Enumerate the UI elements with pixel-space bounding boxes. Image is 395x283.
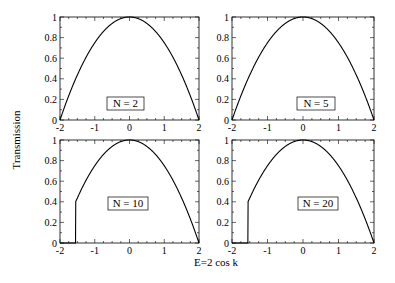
y-tick-label: 0.8 bbox=[217, 32, 230, 43]
y-tick-label: 0.8 bbox=[45, 32, 58, 43]
x-tick-label: 2 bbox=[197, 245, 202, 256]
x-axis-title: E=2 cos k bbox=[194, 256, 239, 268]
panel-bottom-left: -2-101200.20.40.60.81N = 10 bbox=[45, 135, 202, 257]
x-tick-label: -2 bbox=[228, 122, 236, 133]
y-tick-label: 0.2 bbox=[45, 217, 58, 228]
x-tick-label: -2 bbox=[228, 245, 236, 256]
y-tick-label: 0.4 bbox=[217, 196, 230, 207]
y-tick-label: 0.2 bbox=[45, 94, 58, 105]
x-tick-label: 2 bbox=[372, 122, 377, 133]
panel-top-left: -2-101200.20.40.60.81N = 2 bbox=[45, 12, 202, 134]
panel-top-right: -2-101200.20.40.60.81N = 5 bbox=[217, 12, 377, 134]
n-label: N = 20 bbox=[303, 197, 334, 209]
x-tick-label: -1 bbox=[263, 122, 271, 133]
transmission-curve bbox=[60, 140, 199, 243]
y-tick-label: 0.2 bbox=[217, 217, 230, 228]
y-tick-label: 0 bbox=[52, 238, 57, 249]
y-tick-label: 0 bbox=[224, 115, 229, 126]
x-tick-label: 2 bbox=[372, 245, 377, 256]
x-tick-label: 0 bbox=[301, 245, 306, 256]
y-tick-label: 1 bbox=[52, 135, 57, 146]
y-tick-label: 0.8 bbox=[45, 155, 58, 166]
x-tick-label: 1 bbox=[162, 245, 167, 256]
transmission-curve bbox=[232, 140, 374, 243]
y-tick-label: 0.4 bbox=[45, 196, 58, 207]
y-tick-label: 0.6 bbox=[217, 53, 230, 64]
figure: -2-101200.20.40.60.81N = 2-2-101200.20.4… bbox=[0, 0, 395, 283]
x-tick-label: -2 bbox=[56, 245, 64, 256]
y-tick-label: 1 bbox=[52, 12, 57, 23]
y-tick-label: 0 bbox=[224, 238, 229, 249]
panel-bottom-right: -2-101200.20.40.60.81N = 20 bbox=[217, 135, 377, 257]
n-label: N = 2 bbox=[113, 97, 138, 109]
x-tick-label: -1 bbox=[263, 245, 271, 256]
y-tick-label: 0.8 bbox=[217, 155, 230, 166]
x-tick-label: -1 bbox=[91, 245, 99, 256]
x-tick-label: 1 bbox=[336, 245, 341, 256]
y-axis-title: Transmission bbox=[10, 110, 22, 169]
n-label: N = 10 bbox=[113, 197, 144, 209]
y-tick-label: 0.6 bbox=[45, 53, 58, 64]
x-tick-label: 0 bbox=[301, 122, 306, 133]
x-tick-label: 0 bbox=[127, 122, 132, 133]
y-tick-label: 0.6 bbox=[45, 176, 58, 187]
x-tick-label: -2 bbox=[56, 122, 64, 133]
y-tick-label: 0.4 bbox=[45, 73, 58, 84]
x-tick-label: 2 bbox=[197, 122, 202, 133]
y-tick-label: 0 bbox=[52, 115, 57, 126]
y-tick-label: 0.4 bbox=[217, 73, 230, 84]
x-tick-label: 1 bbox=[336, 122, 341, 133]
x-tick-label: 1 bbox=[162, 122, 167, 133]
y-tick-label: 0.2 bbox=[217, 94, 230, 105]
y-tick-label: 0.6 bbox=[217, 176, 230, 187]
x-tick-label: -1 bbox=[91, 122, 99, 133]
n-label: N = 5 bbox=[303, 97, 329, 109]
y-tick-label: 1 bbox=[224, 135, 229, 146]
x-tick-label: 0 bbox=[127, 245, 132, 256]
y-tick-label: 1 bbox=[224, 12, 229, 23]
